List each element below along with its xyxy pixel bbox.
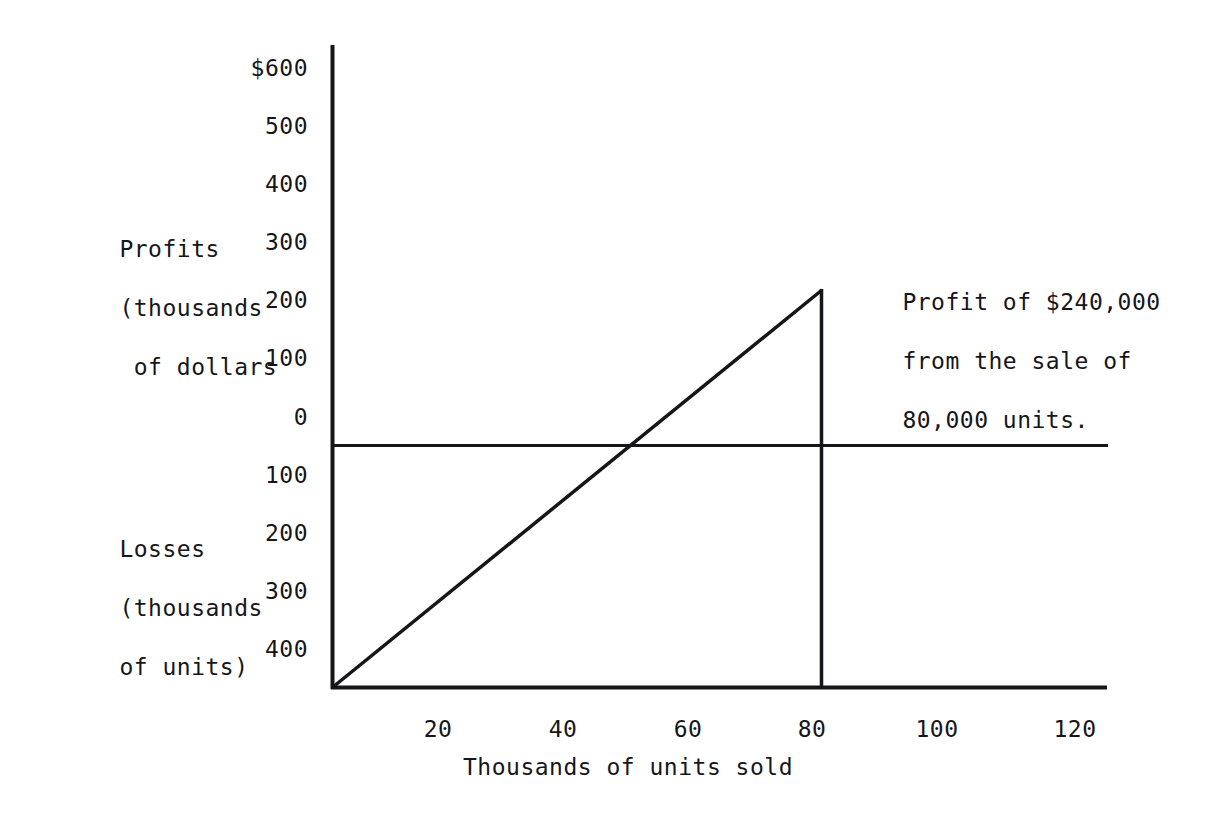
x-axis-caption: Thousands of units sold bbox=[463, 753, 793, 782]
x-tick-20: 20 bbox=[378, 718, 498, 741]
x-tick-80: 80 bbox=[752, 718, 872, 741]
x-tick-120: 120 bbox=[1015, 718, 1135, 741]
annotation-line-3: 80,000 units. bbox=[902, 407, 1089, 433]
profit-annotation: Profit of $240,000 from the sale of 80,0… bbox=[845, 258, 1161, 465]
annotation-line-2: from the sale of bbox=[902, 348, 1132, 374]
y-tick-neg-100: 100 bbox=[188, 464, 308, 487]
x-tick-100: 100 bbox=[877, 718, 997, 741]
chart-figure: $600 500 400 300 200 100 0 100 200 300 4… bbox=[0, 0, 1213, 813]
profits-label-line-1: Profits bbox=[119, 236, 219, 262]
y-tick-500: 500 bbox=[188, 115, 308, 138]
profit-line bbox=[333, 290, 822, 687]
losses-label-line-3: of units) bbox=[119, 654, 248, 680]
x-tick-60: 60 bbox=[628, 718, 748, 741]
x-tick-40: 40 bbox=[503, 718, 623, 741]
annotation-line-1: Profit of $240,000 bbox=[902, 289, 1160, 315]
losses-axis-label: Losses (thousands of units) bbox=[62, 505, 263, 712]
profits-axis-label: Profits (thousands of dollars bbox=[62, 205, 277, 412]
y-tick-600: $600 bbox=[188, 57, 308, 80]
y-tick-400: 400 bbox=[188, 173, 308, 196]
losses-label-line-1: Losses bbox=[119, 536, 205, 562]
losses-label-line-2: (thousands bbox=[119, 595, 262, 621]
profits-label-line-2: (thousands bbox=[119, 295, 262, 321]
profits-label-line-3: of dollars bbox=[119, 354, 277, 380]
